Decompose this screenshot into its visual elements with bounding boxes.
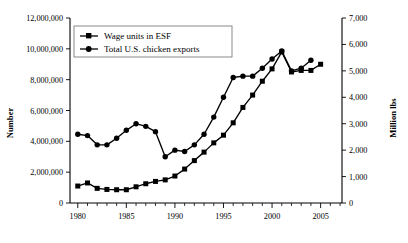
data-point-marker: [75, 132, 80, 137]
legend-label-chicken-exports: Total U.S. chicken exports: [104, 44, 200, 54]
y-tick-label-right: 4,000: [349, 93, 367, 102]
y-tick-label-right: 2,000: [349, 146, 367, 155]
y-tick-label-right: 1,000: [349, 173, 367, 182]
x-tick-label: 1990: [167, 212, 183, 221]
data-point-marker: [260, 79, 265, 84]
data-point-marker: [240, 73, 245, 78]
data-point-marker: [134, 184, 139, 189]
data-point-marker: [269, 56, 274, 61]
data-point-marker: [153, 129, 158, 134]
y-tick-label-left: 0: [59, 199, 63, 208]
data-point-marker: [114, 136, 119, 141]
data-point-marker: [104, 142, 109, 147]
data-point-marker: [279, 48, 284, 53]
data-point-marker: [250, 93, 255, 98]
data-point-marker: [85, 180, 90, 185]
data-point-marker: [124, 128, 129, 133]
chart-figure: 02,000,0004,000,0006,000,0008,000,00010,…: [0, 0, 408, 243]
data-point-marker: [299, 66, 304, 71]
data-point-marker: [221, 95, 226, 100]
legend-marker-square: [86, 33, 91, 38]
data-point-marker: [260, 66, 265, 71]
data-point-marker: [308, 58, 313, 63]
y-tick-label-left: 10,000,000: [26, 45, 63, 54]
x-tick-label: 1980: [70, 212, 86, 221]
data-point-marker: [143, 124, 148, 129]
data-point-marker: [270, 66, 275, 71]
y-tick-label-right: 6,000: [349, 40, 367, 49]
data-point-marker: [163, 154, 168, 159]
data-point-marker: [318, 62, 323, 67]
y-axis-title-right: Million lbs: [388, 98, 398, 138]
series-layer: [75, 48, 323, 192]
data-point-marker: [231, 120, 236, 125]
data-point-marker: [95, 186, 100, 191]
data-point-marker: [182, 149, 187, 154]
data-point-marker: [114, 187, 119, 192]
x-tick-label: 1985: [118, 212, 134, 221]
series-line: [78, 52, 321, 190]
data-point-marker: [75, 184, 80, 189]
data-point-marker: [202, 150, 207, 155]
data-point-marker: [124, 187, 129, 192]
legend-marker-circle: [86, 46, 92, 52]
y-tick-label-left: 2,000,000: [30, 168, 63, 177]
data-point-marker: [172, 147, 177, 152]
x-tick-label: 1995: [215, 212, 231, 221]
data-point-marker: [201, 132, 206, 137]
data-point-marker: [143, 181, 148, 186]
data-point-marker: [211, 114, 216, 119]
y-tick-label-right: 7,000: [349, 14, 367, 23]
data-point-marker: [308, 68, 313, 73]
data-point-marker: [85, 133, 90, 138]
data-point-marker: [133, 121, 138, 126]
data-point-marker: [211, 140, 216, 145]
x-tick-label: 2000: [264, 212, 280, 221]
data-point-marker: [240, 105, 245, 110]
y-tick-label-right: 5,000: [349, 67, 367, 76]
data-point-marker: [192, 158, 197, 163]
y-axis-title-left: Number: [5, 108, 15, 139]
y-tick-label-right: 0: [349, 199, 353, 208]
data-point-marker: [289, 68, 294, 73]
data-point-marker: [192, 142, 197, 147]
data-point-marker: [163, 177, 168, 182]
line-chart: 02,000,0004,000,0006,000,0008,000,00010,…: [0, 0, 408, 243]
data-point-marker: [95, 142, 100, 147]
y-tick-label-left: 4,000,000: [30, 137, 63, 146]
data-point-marker: [250, 73, 255, 78]
x-tick-label: 2005: [312, 212, 328, 221]
data-point-marker: [172, 174, 177, 179]
y-tick-label-right: 3,000: [349, 120, 367, 129]
legend-label-wage-units: Wage units in ESF: [104, 31, 171, 41]
y-tick-label-left: 8,000,000: [30, 76, 63, 85]
data-point-marker: [231, 75, 236, 80]
chart-legend: Wage units in ESF Total U.S. chicken exp…: [74, 26, 232, 57]
series-line: [78, 51, 311, 157]
y-tick-label-left: 6,000,000: [30, 107, 63, 116]
y-tick-label-left: 12,000,000: [26, 14, 63, 23]
data-point-marker: [153, 179, 158, 184]
data-point-marker: [104, 187, 109, 192]
data-point-marker: [221, 133, 226, 138]
series-wage-units: [75, 49, 323, 192]
data-point-marker: [182, 167, 187, 172]
series-chicken-exports: [75, 48, 314, 159]
